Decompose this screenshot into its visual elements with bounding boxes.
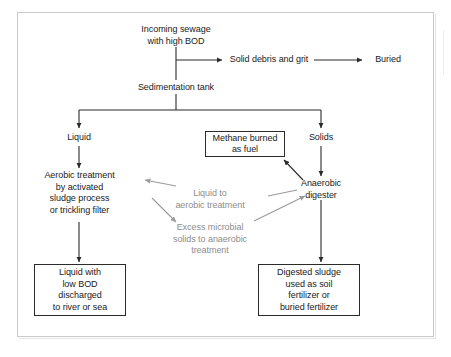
- node-buried: Buried: [366, 54, 410, 66]
- node-aerobic-treatment: Aerobic treatment by activated sludge pr…: [23, 170, 136, 216]
- node-solid-debris: Solid debris and grit: [226, 54, 312, 66]
- label-recycle-liquid: Liquid to aerobic treatment: [151, 188, 269, 211]
- node-liquid: Liquid: [49, 132, 109, 144]
- label-recycle-solids: Excess microbial solids to anaerobic tre…: [155, 222, 265, 257]
- node-incoming-sewage: Incoming sewage with high BOD: [126, 24, 226, 47]
- node-solids: Solids: [291, 132, 351, 144]
- diagram-canvas: Incoming sewage with high BOD Solid debr…: [0, 0, 451, 357]
- box-methane-burned: Methane burned as fuel: [205, 131, 285, 157]
- box-digested-sludge: Digested sludge used as soil fertilizer …: [258, 264, 360, 316]
- box-effluent: Liquid with low BOD discharged to river …: [34, 264, 126, 316]
- node-sedimentation-tank: Sedimentation tank: [126, 82, 226, 94]
- node-anaerobic-digester: Anaerobic digester: [287, 178, 355, 201]
